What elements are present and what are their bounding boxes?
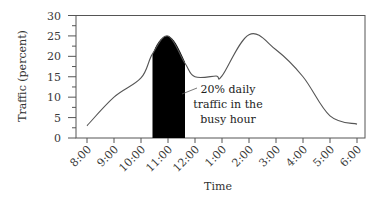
y-tick-label: 20: [47, 50, 61, 63]
x-tick-label: 5:00: [310, 143, 337, 170]
traffic-chart: 051015202530 8:009:0010:0011:0012:001:00…: [0, 0, 385, 201]
x-tick-label: 1:00: [202, 143, 229, 170]
annotation-line: traffic in the: [193, 98, 262, 111]
traffic-line: [87, 34, 357, 126]
x-tick-label: 3:00: [256, 143, 283, 170]
annotation-line: 20% daily: [201, 83, 257, 96]
busy-hour-region: [153, 36, 186, 138]
y-tick-label: 10: [47, 91, 61, 104]
busy-hour-annotation: 20% dailytraffic in thebusy hour: [193, 83, 262, 126]
x-tick-label: 12:00: [171, 143, 203, 175]
y-tick-label: 15: [47, 71, 61, 84]
y-axis-title: Traffic (percent): [16, 30, 29, 122]
y-tick-label: 30: [47, 10, 61, 23]
annotation-line: busy hour: [200, 113, 256, 126]
y-tick-label: 5: [54, 112, 61, 125]
x-axis: 8:009:0010:0011:0012:001:002:003:004:005…: [67, 138, 364, 175]
x-tick-label: 4:00: [283, 143, 310, 170]
x-axis-title: Time: [204, 180, 232, 193]
x-tick-label: 2:00: [229, 143, 256, 170]
y-tick-label: 25: [47, 30, 61, 43]
x-tick-label: 11:00: [144, 143, 176, 175]
x-tick-label: 8:00: [67, 143, 94, 170]
y-axis: 051015202530: [47, 10, 76, 146]
x-tick-label: 10:00: [117, 143, 149, 175]
x-tick-label: 6:00: [337, 143, 364, 170]
y-tick-label: 0: [54, 132, 61, 145]
